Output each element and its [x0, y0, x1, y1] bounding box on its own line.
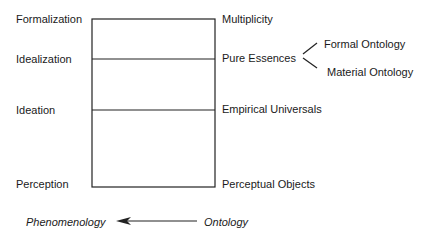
label-empirical-universals: Empirical Universals	[222, 103, 322, 115]
label-phenomenology: Phenomenology	[26, 216, 106, 228]
level-box	[92, 19, 215, 187]
branch-material	[303, 58, 317, 68]
branch-formal	[303, 43, 317, 54]
label-ideation: Ideation	[16, 104, 55, 116]
label-pure-essences: Pure Essences	[222, 52, 296, 64]
label-material-ontology: Material Ontology	[327, 66, 413, 78]
label-formalization: Formalization	[16, 13, 82, 25]
diagram-lines	[0, 0, 429, 244]
label-formal-ontology: Formal Ontology	[324, 38, 405, 50]
label-perception: Perception	[16, 178, 69, 190]
label-idealization: Idealization	[16, 53, 72, 65]
label-ontology: Ontology	[204, 216, 248, 228]
label-multiplicity: Multiplicity	[222, 13, 273, 25]
label-perceptual-objects: Perceptual Objects	[222, 178, 315, 190]
